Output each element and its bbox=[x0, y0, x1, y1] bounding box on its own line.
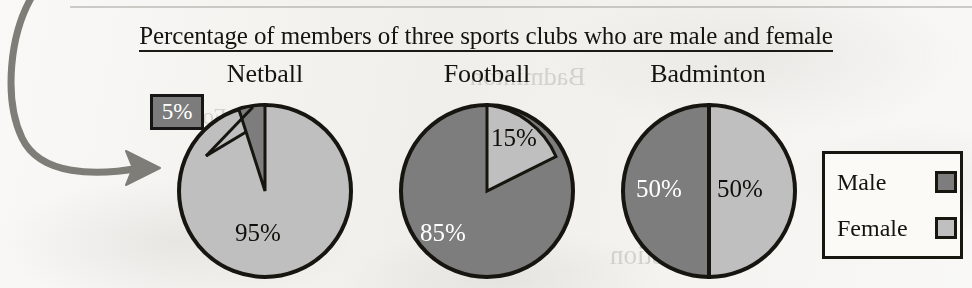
legend-label-male: Male bbox=[837, 167, 886, 197]
callout-netball-male: 5% bbox=[150, 94, 204, 130]
pie-value-football-female: 15% bbox=[491, 124, 537, 152]
pie-chart-football: 15% 85% bbox=[396, 102, 578, 288]
legend-row-female: Female bbox=[837, 208, 957, 248]
scanned-page-canvas: Badminton Football going to Question Per… bbox=[0, 0, 972, 288]
pie-value-badminton-female: 50% bbox=[717, 175, 763, 203]
legend-swatch-female-icon bbox=[935, 217, 957, 239]
legend-swatch-male-icon bbox=[935, 171, 957, 193]
page-title: Percentage of members of three sports cl… bbox=[0, 20, 972, 52]
pie-value-netball-female: 95% bbox=[235, 219, 281, 247]
pie-value-badminton-male: 50% bbox=[636, 175, 682, 203]
page-title-text: Percentage of members of three sports cl… bbox=[139, 22, 833, 52]
pie-label-netball: Netball bbox=[135, 57, 395, 91]
pie-chart-badminton: 50% 50% bbox=[617, 102, 801, 288]
pie-label-badminton: Badminton bbox=[578, 57, 838, 91]
legend-row-male: Male bbox=[837, 162, 957, 202]
pie-value-football-male: 85% bbox=[420, 219, 466, 247]
legend-label-female: Female bbox=[837, 213, 908, 243]
chart-legend: Male Female bbox=[822, 151, 963, 259]
